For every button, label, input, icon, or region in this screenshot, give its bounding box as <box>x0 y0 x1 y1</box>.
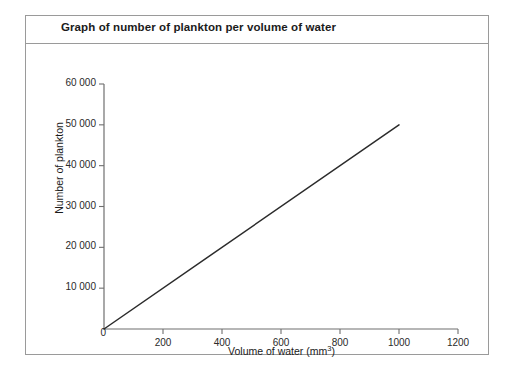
chart-title-bar: Graph of number of plankton per volume o… <box>26 16 488 44</box>
x-axis-title-base: Volume of water (mm <box>228 345 327 357</box>
x-axis-title-tail: ) <box>331 345 335 357</box>
page-title: Graph of number of plankton per volume o… <box>26 21 371 33</box>
y-axis-tick-label: 40 000 <box>44 159 96 170</box>
chart-card: Graph of number of plankton per volume o… <box>25 15 489 355</box>
y-axis-tick-label: 10 000 <box>44 281 96 292</box>
plot-area: 10 00020 00030 00040 00050 00060 000 200… <box>26 44 488 354</box>
y-axis-tick-label: 20 000 <box>44 240 96 251</box>
y-axis-tick-label: 60 000 <box>44 77 96 88</box>
data-series-group <box>104 125 399 329</box>
y-axis-tick-label: 30 000 <box>44 200 96 211</box>
data-line <box>104 125 399 329</box>
origin-tick-label: 0 <box>92 327 106 338</box>
y-axis-title: Number of plankton <box>53 88 65 248</box>
y-axis-tick-label: 50 000 <box>44 118 96 129</box>
x-axis-title: Volume of water (mm3) <box>104 345 459 357</box>
